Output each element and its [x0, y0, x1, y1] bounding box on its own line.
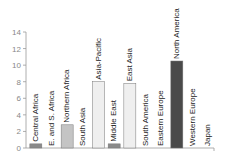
- category-label: Western Europe: [188, 88, 197, 146]
- category-label: Middle East: [109, 99, 118, 142]
- y-tick-label: 6: [17, 94, 22, 103]
- bar: [93, 82, 105, 148]
- bar: [108, 144, 120, 148]
- bar: [124, 83, 136, 148]
- y-tick-label: 10: [12, 61, 21, 70]
- category-label: Northern Africa: [62, 69, 71, 123]
- y-tick-label: 14: [12, 28, 21, 37]
- category-label: South Asia: [78, 107, 87, 146]
- bar-chart: 02468101214Central AfricaE. and S. Afric…: [0, 0, 232, 157]
- bar: [171, 61, 183, 148]
- category-label: Japan: [203, 124, 212, 146]
- category-label: Central Africa: [31, 93, 40, 142]
- y-tick-label: 0: [17, 144, 22, 153]
- category-label: E. and S. Africa: [47, 90, 56, 146]
- bar: [30, 144, 42, 148]
- category-label: Asia-Pacific: [94, 38, 103, 80]
- bar: [61, 125, 73, 148]
- y-tick-label: 4: [17, 111, 22, 120]
- y-tick-label: 12: [12, 45, 21, 54]
- y-tick-label: 2: [17, 127, 22, 136]
- category-label: East Asia: [125, 47, 134, 81]
- category-label: South America: [141, 93, 150, 146]
- y-tick-label: 8: [17, 78, 22, 87]
- category-label: North America: [172, 8, 181, 59]
- category-label: Eastern Europe: [156, 90, 165, 146]
